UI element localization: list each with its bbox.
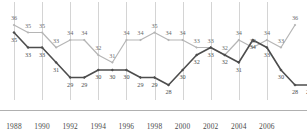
x-tick-2002: 2002 xyxy=(203,122,219,131)
data-label-upper-series-8: 34 xyxy=(123,29,129,36)
data-label-upper-series-9: 34 xyxy=(137,29,143,36)
data-label-lower-series-18: 33 xyxy=(264,51,270,58)
data-label-upper-series-2: 35 xyxy=(39,22,45,29)
data-label-lower-series-8: 30 xyxy=(123,73,129,80)
data-point-lower-series-7 xyxy=(111,68,114,71)
data-label-upper-series-15: 32 xyxy=(222,44,228,51)
data-label-lower-series-12: 30 xyxy=(180,73,186,80)
x-tick-2000: 2000 xyxy=(175,122,191,131)
data-label-upper-series-6: 32 xyxy=(95,44,101,51)
data-label-lower-series-9: 29 xyxy=(137,81,143,88)
data-label-lower-series-16: 31 xyxy=(236,66,242,73)
data-label-lower-series-4: 29 xyxy=(67,81,73,88)
data-label-lower-series-0: 35 xyxy=(11,36,17,43)
data-label-upper-series-18: 34 xyxy=(264,29,270,36)
x-axis-labels: 1988199019921994199619982000200220042006 xyxy=(0,113,307,139)
data-label-upper-series-0: 36 xyxy=(11,14,17,21)
x-tick-1998: 1998 xyxy=(147,122,163,131)
x-tick-1988: 1988 xyxy=(6,122,22,131)
data-label-lower-series-11: 28 xyxy=(166,88,172,95)
data-label-lower-series-13: 32 xyxy=(194,58,200,65)
data-label-lower-series-3: 31 xyxy=(53,66,59,73)
data-label-lower-series-1: 33 xyxy=(25,51,31,58)
data-label-upper-series-20: 36 xyxy=(292,14,298,21)
data-label-lower-series-2: 33 xyxy=(39,51,45,58)
data-label-lower-series-19: 30 xyxy=(278,73,284,80)
data-label-lower-series-17: 34 xyxy=(250,43,256,50)
data-label-lower-series-20: 28 xyxy=(292,88,298,95)
x-tick-1996: 1996 xyxy=(119,122,135,131)
data-label-upper-series-11: 34 xyxy=(166,29,172,36)
data-label-lower-series-21: 28 xyxy=(306,88,307,95)
x-tick-1992: 1992 xyxy=(62,122,78,131)
data-label-upper-series-5: 34 xyxy=(81,29,87,36)
data-label-upper-series-19: 33 xyxy=(278,37,284,44)
data-label-upper-series-3: 33 xyxy=(53,37,59,44)
plot-svg xyxy=(0,0,307,112)
x-tick-2006: 2006 xyxy=(259,122,275,131)
data-label-upper-series-14: 33 xyxy=(208,37,214,44)
plot-area: 3635353334343231343435343433333234333433… xyxy=(0,0,307,112)
data-label-upper-series-16: 34 xyxy=(236,29,242,36)
x-tick-2004: 2004 xyxy=(231,122,247,131)
data-label-lower-series-15: 32 xyxy=(222,58,228,65)
data-label-lower-series-10: 29 xyxy=(151,81,157,88)
data-label-upper-series-13: 33 xyxy=(194,37,200,44)
x-tick-1994: 1994 xyxy=(91,122,107,131)
data-label-upper-series-7: 31 xyxy=(109,52,115,59)
data-label-lower-series-7: 30 xyxy=(109,73,115,80)
data-label-upper-series-4: 34 xyxy=(67,29,73,36)
data-label-lower-series-6: 30 xyxy=(95,73,101,80)
data-label-lower-series-14: 33 xyxy=(208,51,214,58)
line-chart: 3635353334343231343435343433333234333433… xyxy=(0,0,307,139)
data-label-upper-series-1: 35 xyxy=(25,22,31,29)
x-tick-1990: 1990 xyxy=(34,122,50,131)
data-label-upper-series-12: 34 xyxy=(180,29,186,36)
data-label-upper-series-10: 35 xyxy=(151,22,157,29)
data-label-lower-series-5: 29 xyxy=(81,81,87,88)
